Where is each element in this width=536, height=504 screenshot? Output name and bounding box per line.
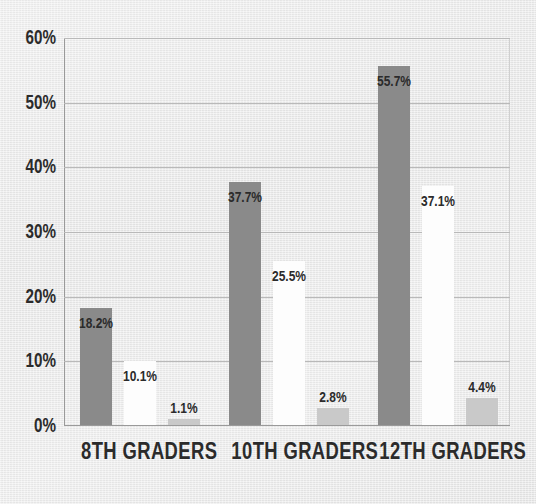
bar[interactable]: 18.2% [80,308,112,426]
bar-value-label: 1.1% [171,400,198,415]
y-axis-tick-text: 0% [34,414,56,437]
x-axis-line [64,425,510,427]
x-axis-category-text: 12TH GRADERS [380,440,527,463]
bar-value-label: 2.8% [319,389,346,404]
bar[interactable]: 4.4% [466,398,498,426]
y-axis-tick-text: 60% [26,26,56,49]
y-axis-tick-label: 0% [0,414,56,437]
bar-value-label: 37.7% [228,189,262,204]
y-axis-tick-label: 60% [0,26,56,49]
y-axis-tick-text: 10% [26,349,56,372]
gridline [64,167,510,168]
plot-area: 18.2%10.1%1.1%37.7%25.5%2.8%55.7%37.1%4.… [64,38,510,426]
y-axis-tick-label: 30% [0,220,56,243]
bar[interactable]: 10.1% [124,361,156,426]
y-axis-tick-text: 30% [26,220,56,243]
y-axis-tick-label: 50% [0,91,56,114]
x-axis-category-label: 8TH GRADERS [64,440,213,463]
bar[interactable]: 37.1% [422,186,454,426]
x-axis-category-text: 8TH GRADERS [81,440,217,463]
y-axis-tick-label: 10% [0,349,56,372]
bar-value-label: 55.7% [377,73,411,88]
bar-value-label: 10.1% [123,368,157,383]
bar-chart: 0%10%20%30%40%50%60% 18.2%10.1%1.1%37.7%… [0,0,536,504]
y-axis-tick-label: 40% [0,155,56,178]
y-axis-tick-label: 20% [0,285,56,308]
x-axis-category-text: 10TH GRADERS [231,440,378,463]
gridline [64,103,510,104]
x-axis-category-label: 12TH GRADERS [361,440,510,463]
bar[interactable]: 55.7% [378,66,410,426]
bar[interactable]: 2.8% [317,408,349,426]
bar-value-label: 4.4% [468,379,495,394]
y-axis-tick-text: 50% [26,91,56,114]
y-axis-tick-text: 40% [26,155,56,178]
bar-value-label: 37.1% [421,193,455,208]
bar[interactable]: 37.7% [229,182,261,426]
y-axis-tick-text: 20% [26,285,56,308]
gridline [64,38,510,39]
x-axis-category-label: 10TH GRADERS [213,440,362,463]
bar[interactable]: 25.5% [273,261,305,426]
bar-value-label: 25.5% [272,268,306,283]
bar-value-label: 18.2% [79,315,113,330]
